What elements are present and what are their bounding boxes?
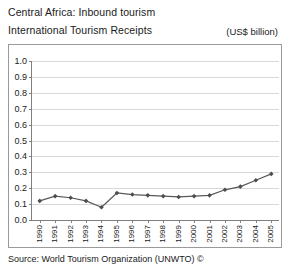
x-axis-label: 1994	[97, 225, 105, 243]
data-point-marker	[192, 194, 197, 199]
data-point-marker	[53, 194, 58, 199]
y-tick-mark	[29, 220, 32, 221]
data-point-marker	[84, 199, 89, 204]
x-tick-mark	[179, 220, 180, 223]
x-axis-label: 1992	[67, 225, 75, 243]
x-axis-label: 2004	[252, 225, 260, 243]
x-axis-label: 2000	[190, 225, 198, 243]
x-axis-label: 2005	[267, 225, 275, 243]
chart-page: Central Africa: Inbound tourism Internat…	[0, 0, 290, 272]
x-axis-label: 2003	[236, 225, 244, 243]
y-axis-label: 0.7	[14, 104, 27, 113]
y-axis-label: 0.1	[14, 200, 27, 209]
x-axis-label: 1999	[175, 225, 183, 243]
x-axis-label: 2001	[206, 225, 214, 243]
x-tick-mark	[40, 220, 41, 223]
series-line	[40, 174, 272, 207]
x-axis-label: 1991	[51, 225, 59, 243]
x-axis-label: 1993	[82, 225, 90, 243]
y-axis-label: 0.0	[14, 216, 27, 225]
data-point-marker	[176, 195, 181, 200]
data-point-marker	[254, 178, 259, 183]
x-tick-mark	[132, 220, 133, 223]
chart-title-line1: Central Africa: Inbound tourism	[8, 6, 155, 18]
y-axis-label: 0.3	[14, 168, 27, 177]
data-point-marker	[68, 195, 73, 200]
x-tick-mark	[225, 220, 226, 223]
y-axis-label: 0.4	[14, 152, 27, 161]
x-tick-mark	[117, 220, 118, 223]
x-axis-label: 1997	[144, 225, 152, 243]
x-axis-label: 1998	[159, 225, 167, 243]
plot-area: 0.00.10.20.30.40.50.60.70.80.91.0 199019…	[31, 61, 279, 221]
x-axis-label: 1990	[36, 225, 44, 243]
x-tick-mark	[210, 220, 211, 223]
x-tick-mark	[101, 220, 102, 223]
x-tick-mark	[71, 220, 72, 223]
data-point-marker	[269, 172, 274, 177]
x-tick-mark	[55, 220, 56, 223]
series-line-chart	[32, 61, 279, 220]
x-axis-label: 1995	[113, 225, 121, 243]
x-tick-mark	[240, 220, 241, 223]
data-point-marker	[223, 187, 228, 192]
y-axis-label: 0.8	[14, 88, 27, 97]
y-axis-label: 0.6	[14, 120, 27, 129]
y-axis-label: 0.9	[14, 72, 27, 81]
chart-frame: 0.00.10.20.30.40.50.60.70.80.91.0 199019…	[8, 44, 282, 248]
chart-title-line2: International Tourism Receipts	[8, 24, 152, 36]
data-point-marker	[238, 184, 243, 189]
data-point-marker	[145, 193, 150, 198]
x-axis-label: 1996	[128, 225, 136, 243]
x-tick-mark	[271, 220, 272, 223]
x-axis-label: 2002	[221, 225, 229, 243]
x-tick-mark	[86, 220, 87, 223]
x-tick-mark	[194, 220, 195, 223]
data-point-marker	[130, 192, 135, 197]
data-point-marker	[207, 193, 212, 198]
y-axis-label: 0.5	[14, 136, 27, 145]
x-tick-mark	[256, 220, 257, 223]
y-axis-label: 1.0	[14, 57, 27, 66]
x-tick-mark	[163, 220, 164, 223]
source-note: Source: World Tourism Organization (UNWT…	[8, 254, 204, 264]
units-label: (US$ billion)	[226, 26, 278, 37]
data-point-marker	[161, 194, 166, 199]
x-tick-mark	[148, 220, 149, 223]
data-point-marker	[37, 199, 42, 204]
y-axis-label: 0.2	[14, 184, 27, 193]
